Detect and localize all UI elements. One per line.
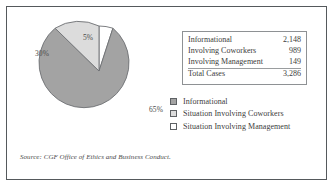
table-cell-value: 149 [279,57,301,68]
table-cell-label: Informational [188,35,279,46]
legend-swatch-icon [170,98,177,105]
legend-item-informational: Informational [170,95,290,107]
legend-swatch-icon [170,110,177,117]
pie-label-coworkers: 30% [35,49,49,58]
figure-frame: 5% 30% 65% Informational 2,148 Involving… [6,6,327,180]
table-total-row: Total Cases 3,286 [188,68,301,79]
pie-chart-svg [21,13,171,143]
case-counts-table-body: Informational 2,148 Involving Coworkers … [188,35,301,80]
legend-item-coworkers: Situation Involving Coworkers [170,108,290,120]
pie-label-management: 5% [83,33,93,42]
table-cell-value: 2,148 [279,35,301,46]
table-cell-label: Involving Coworkers [188,46,279,57]
table-cell-label: Involving Management [188,57,279,68]
legend-swatch-icon [170,123,177,130]
legend-item-label: Situation Involving Coworkers [183,109,284,118]
legend-item-management: Situation Involving Management [170,120,290,132]
table-total-value: 3,286 [279,68,301,79]
pie-label-informational: 65% [149,105,163,114]
case-counts-table: Informational 2,148 Involving Coworkers … [182,31,307,85]
table-row: Involving Coworkers 989 [188,46,301,57]
pie-chart: 5% 30% 65% [21,13,171,143]
table-cell-value: 989 [279,46,301,57]
source-note: Source: CGF Office of Ethics and Busines… [20,153,171,161]
legend-item-label: Informational [183,97,228,106]
legend-item-label: Situation Involving Management [183,122,290,131]
table-row: Informational 2,148 [188,35,301,46]
chart-legend: Informational Situation Involving Cowork… [170,95,290,133]
table-total-label: Total Cases [188,68,279,79]
table-row: Involving Management 149 [188,57,301,68]
